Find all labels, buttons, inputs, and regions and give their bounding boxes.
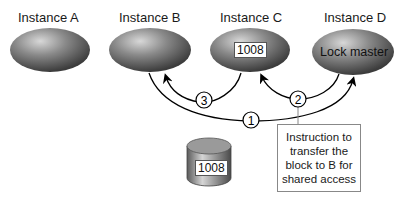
callout-line: transfer the (278, 144, 360, 158)
instance-b-node (109, 28, 191, 72)
callout-line: block to B for (278, 158, 360, 172)
instance-c-label: Instance C (220, 10, 282, 25)
instance-a-node (10, 28, 90, 72)
instance-b-label: Instance B (119, 10, 180, 25)
svg-text:3: 3 (201, 94, 208, 108)
disk-block-tag: 1008 (195, 160, 228, 176)
callout-line: Instruction to (278, 130, 360, 144)
instance-d-label: Instance D (324, 10, 386, 25)
svg-text:1: 1 (248, 114, 255, 128)
instance-a-label: Instance A (18, 10, 79, 25)
svg-text:2: 2 (295, 93, 302, 107)
instruction-callout: Instruction to transfer the block to B f… (277, 124, 361, 192)
instance-c-block-tag: 1008 (234, 42, 267, 58)
lock-master-label: Lock master (320, 45, 388, 59)
callout-line: shared access (278, 172, 360, 186)
